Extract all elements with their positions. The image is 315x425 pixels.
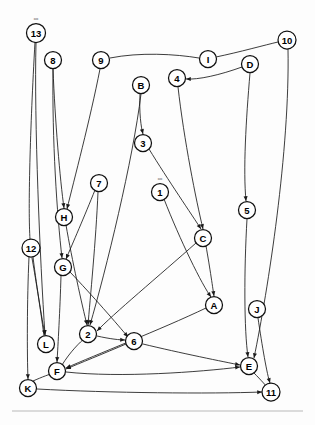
- arrowhead-icon: [211, 291, 215, 296]
- node-1[interactable]: ooo1: [152, 178, 169, 201]
- arrowhead-icon: [245, 352, 249, 357]
- edge-7-2[interactable]: [86, 192, 98, 325]
- arrowhead-icon: [197, 224, 201, 229]
- node-label: 10: [282, 35, 293, 46]
- node-label: E: [246, 361, 252, 372]
- edge-line: [110, 54, 199, 58]
- arrowhead-icon: [59, 253, 63, 258]
- edge-D-4[interactable]: [186, 67, 242, 81]
- node-label: K: [25, 383, 32, 394]
- node-7[interactable]: 7: [91, 175, 108, 192]
- node-F[interactable]: F: [49, 363, 66, 380]
- edge-line: [245, 219, 248, 357]
- node-label: 5: [244, 205, 250, 216]
- edge-6-E[interactable]: [143, 344, 240, 366]
- arrowhead-icon: [55, 357, 59, 362]
- node-9[interactable]: 9: [93, 52, 110, 69]
- edge-4-C[interactable]: [178, 87, 204, 229]
- node-label: F: [54, 366, 60, 377]
- node-A[interactable]: A: [206, 297, 223, 314]
- node-H[interactable]: H: [56, 209, 73, 226]
- graph-figure: ooo1389B4ID1037ooo1H5C12GAJL26EFK11: [0, 0, 315, 425]
- edge-H-2[interactable]: [66, 225, 88, 325]
- node-E[interactable]: E: [241, 358, 258, 375]
- node-5[interactable]: 5: [239, 202, 256, 219]
- node-I[interactable]: I: [200, 51, 217, 68]
- edge-G-F[interactable]: [55, 276, 61, 362]
- arrowhead-icon: [186, 77, 191, 81]
- node-4[interactable]: 4: [169, 70, 186, 87]
- arrowhead-icon: [257, 390, 262, 394]
- node-D[interactable]: D: [242, 56, 259, 73]
- edge-line: [53, 69, 64, 208]
- node-label: H: [61, 212, 68, 223]
- edge-13-12[interactable]: [29, 42, 35, 239]
- edge-F-E[interactable]: [66, 366, 240, 375]
- node-label: G: [59, 262, 66, 273]
- node-label: 8: [50, 55, 55, 66]
- arrowhead-icon: [253, 353, 257, 358]
- node-label: 4: [174, 73, 180, 84]
- arrowhead-icon: [61, 203, 65, 208]
- edge-line: [66, 367, 240, 375]
- edge-line: [258, 318, 270, 383]
- arrowhead-icon: [207, 292, 211, 297]
- edge-line: [66, 225, 87, 325]
- edge-line: [216, 42, 278, 57]
- node-J[interactable]: J: [249, 301, 266, 318]
- node-label: 11: [266, 387, 277, 398]
- edge-line: [37, 389, 262, 393]
- node-3[interactable]: 3: [135, 135, 152, 152]
- node-label: L: [43, 339, 49, 350]
- edge-line: [143, 344, 240, 365]
- node-label: I: [207, 54, 210, 65]
- node-12[interactable]: 12: [22, 239, 40, 257]
- edge-line: [178, 87, 203, 229]
- edge-2-6[interactable]: [97, 336, 125, 342]
- edge-C-A[interactable]: [206, 246, 215, 296]
- edge-D-5[interactable]: [244, 73, 250, 201]
- node-label: 7: [96, 178, 101, 189]
- arrowhead-icon: [267, 378, 271, 383]
- arrowhead-icon: [235, 362, 240, 366]
- edge-K-11[interactable]: [37, 389, 262, 394]
- edge-9-I[interactable]: [110, 54, 199, 58]
- node-label: 3: [140, 138, 145, 149]
- node-label: D: [247, 59, 254, 70]
- node-tag-label: ooo: [34, 18, 39, 21]
- node-label: 2: [85, 329, 90, 340]
- edge-line: [186, 67, 242, 79]
- edge-12-K[interactable]: [26, 257, 30, 379]
- graph-canvas[interactable]: ooo1389B4ID1037ooo1H5C12GAJL26EFK11: [0, 0, 315, 425]
- node-label: 12: [26, 243, 37, 254]
- edge-1-A[interactable]: [164, 199, 211, 297]
- node-label: 1: [157, 187, 163, 198]
- node-label: 6: [131, 336, 136, 347]
- node-label: C: [200, 233, 207, 244]
- node-label: A: [211, 300, 218, 311]
- edge-line: [29, 42, 35, 239]
- edge-8-H[interactable]: [53, 69, 65, 208]
- arrowhead-icon: [26, 374, 30, 379]
- node-G[interactable]: G: [55, 259, 72, 276]
- node-C[interactable]: C: [195, 230, 212, 247]
- node-10[interactable]: 10: [278, 31, 296, 49]
- node-label: B: [138, 80, 145, 91]
- edge-5-E[interactable]: [245, 219, 250, 357]
- node-13[interactable]: ooo13: [27, 18, 46, 43]
- arrowhead-icon: [235, 366, 240, 370]
- edge-I-10[interactable]: [216, 42, 278, 57]
- edge-line: [206, 246, 214, 296]
- node-2[interactable]: 2: [80, 326, 97, 343]
- node-B[interactable]: B: [133, 77, 150, 94]
- node-label: J: [254, 304, 259, 315]
- edge-J-11[interactable]: [258, 318, 271, 383]
- node-11[interactable]: 11: [262, 383, 280, 401]
- node-8[interactable]: 8: [45, 52, 62, 69]
- nodes-layer: ooo1389B4ID1037ooo1H5C12GAJL26EFK11: [20, 18, 297, 402]
- edge-line: [27, 257, 29, 379]
- node-6[interactable]: 6: [126, 333, 143, 350]
- node-L[interactable]: L: [38, 336, 55, 353]
- edge-line: [57, 276, 61, 362]
- node-K[interactable]: K: [20, 380, 37, 397]
